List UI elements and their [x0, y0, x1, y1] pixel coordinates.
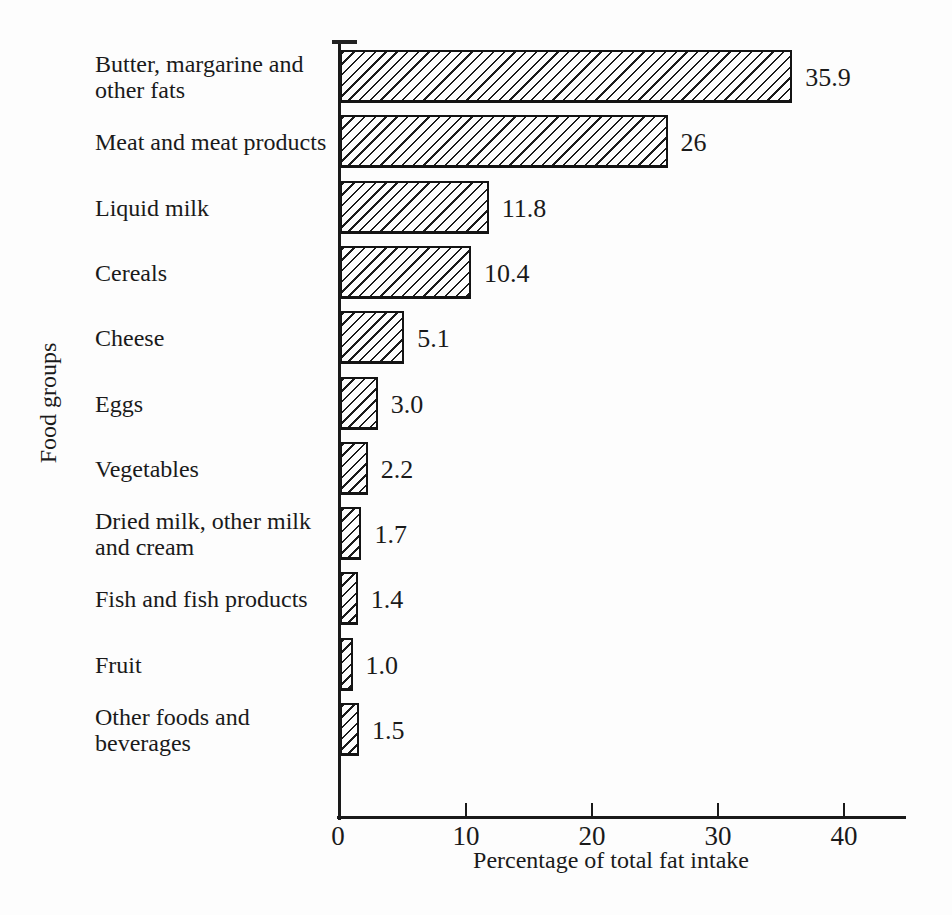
- category-label-9: Fruit: [95, 652, 345, 678]
- x-tick-40: [843, 803, 845, 816]
- value-label-8: 1.4: [371, 585, 404, 615]
- hatched-bar-7: [340, 507, 361, 560]
- category-label-3: Cereals: [95, 260, 345, 286]
- value-label-4: 5.1: [417, 324, 450, 354]
- hatched-bar-5: [340, 377, 378, 430]
- category-label-line: Liquid milk: [95, 195, 345, 221]
- category-label-6: Vegetables: [95, 456, 345, 482]
- value-label-9: 1.0: [366, 651, 399, 681]
- category-label-line: Dried milk, other milk: [95, 508, 345, 534]
- value-label-10: 1.5: [372, 716, 405, 746]
- category-label-line: Cheese: [95, 325, 345, 351]
- x-tick-label-10: 10: [453, 822, 480, 850]
- x-axis-title: Percentage of total fat intake: [341, 847, 881, 874]
- category-label-line: other fats: [95, 77, 345, 103]
- hatched-bar-6: [340, 442, 368, 495]
- category-label-line: Eggs: [95, 391, 345, 417]
- category-label-line: Meat and meat products: [95, 129, 345, 155]
- x-axis-line: [337, 816, 906, 819]
- category-label-line: Cereals: [95, 260, 345, 286]
- category-label-line: Vegetables: [95, 456, 345, 482]
- hatched-bar-1: [340, 115, 668, 168]
- hatched-bar-9: [340, 638, 353, 691]
- category-label-7: Dried milk, other milkand cream: [95, 508, 345, 560]
- x-tick-label-20: 20: [579, 822, 606, 850]
- category-label-0: Butter, margarine andother fats: [95, 51, 345, 103]
- category-label-10: Other foods and beverages: [95, 704, 345, 756]
- value-label-3: 10.4: [484, 259, 530, 289]
- value-label-0: 35.9: [805, 63, 851, 93]
- y-axis-line: [338, 44, 341, 820]
- bar-chart-figure: Food groups Butter, margarine andother f…: [0, 0, 952, 915]
- x-tick-label-30: 30: [705, 822, 732, 850]
- category-label-1: Meat and meat products: [95, 129, 345, 155]
- x-tick-10: [465, 803, 467, 816]
- category-label-2: Liquid milk: [95, 195, 345, 221]
- value-label-6: 2.2: [381, 455, 414, 485]
- x-tick-label-40: 40: [831, 822, 858, 850]
- x-tick-label-0: 0: [331, 822, 345, 850]
- hatched-bar-8: [340, 572, 358, 625]
- y-axis-title: Food groups: [35, 343, 62, 464]
- category-label-4: Cheese: [95, 325, 345, 351]
- category-label-5: Eggs: [95, 391, 345, 417]
- scanned-chart-page: Food groups Butter, margarine andother f…: [0, 0, 952, 915]
- hatched-bar-4: [340, 311, 404, 364]
- value-label-2: 11.8: [502, 194, 547, 224]
- axis-top-mark: [332, 40, 357, 44]
- x-tick-30: [717, 803, 719, 816]
- category-label-line: Fruit: [95, 652, 345, 678]
- x-tick-20: [591, 803, 593, 816]
- value-label-7: 1.7: [374, 520, 407, 550]
- value-label-1: 26: [681, 128, 707, 158]
- hatched-bar-10: [340, 703, 359, 756]
- category-label-line: Other foods and beverages: [95, 704, 345, 756]
- category-label-line: Fish and fish products: [95, 586, 345, 612]
- value-label-5: 3.0: [391, 390, 424, 420]
- hatched-bar-0: [340, 50, 792, 103]
- category-label-line: and cream: [95, 534, 345, 560]
- hatched-bar-3: [340, 246, 471, 299]
- category-label-8: Fish and fish products: [95, 586, 345, 612]
- category-label-line: Butter, margarine and: [95, 51, 345, 77]
- hatched-bar-2: [340, 181, 489, 234]
